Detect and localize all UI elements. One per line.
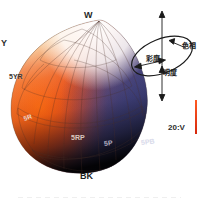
label-hue-5p: 5P — [104, 139, 113, 147]
label-hue-5yr: 5YR — [9, 73, 23, 80]
label-hue-5rp: 5RP — [71, 134, 85, 141]
value-axis — [159, 11, 165, 101]
label-black-pole: BK — [80, 172, 93, 181]
label-chroma-jp: 彩度 — [146, 56, 160, 63]
color-attributes-schematic: 色相 彩度 明度 — [126, 4, 199, 104]
label-value-axis: 20:V — [168, 124, 185, 132]
label-hue-jp: 色相 — [182, 43, 196, 50]
schematic-render — [126, 4, 199, 104]
label-value-jp: 明度 — [163, 70, 177, 77]
label-hue-5pb: 5PB — [141, 137, 155, 146]
label-white-pole: W — [84, 11, 93, 20]
red-accent-bar — [195, 100, 197, 134]
label-hue-y: Y — [1, 39, 7, 48]
caption-rule — [18, 197, 181, 198]
figure-canvas: W BK Y 5YR 5R 5RP 5P 5PB 20:V — [0, 0, 199, 201]
figure-caption — [0, 183, 199, 201]
